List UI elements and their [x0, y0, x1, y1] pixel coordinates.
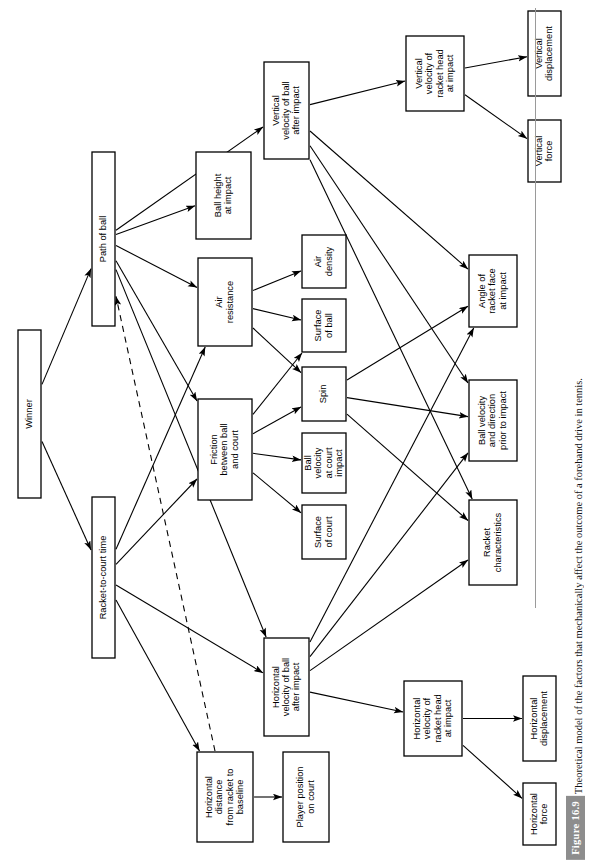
edge-winner-to-rct	[42, 442, 91, 550]
node-winner[interactable]: Winner	[18, 330, 41, 498]
node-label-airres: resistance	[225, 281, 235, 323]
edge-rct-to-hvball	[116, 585, 263, 673]
node-label-spin: Spin	[318, 385, 328, 404]
figure-caption-text: Theoretical model of the factors that me…	[573, 378, 584, 794]
node-hvball[interactable]: Horizontalvelocity of ballafter impact	[264, 638, 309, 736]
edge-vvracket-to-vforce	[465, 95, 527, 139]
node-label-winner: Winner	[24, 399, 34, 428]
figure-number-tag: Figure 16.9	[566, 796, 585, 860]
node-bvprior[interactable]: Ball velocityand directionprior to impac…	[469, 380, 517, 461]
figure-caption-area: Theoretical model of the factors that me…	[529, 0, 589, 866]
node-label-angleface: Angle of	[477, 274, 487, 309]
node-label-path: Path of ball	[98, 216, 108, 263]
node-label-airdens: Air	[313, 256, 323, 267]
node-label-hvracket: velocity of	[422, 697, 432, 739]
node-label-bvcourt: Ball	[303, 455, 313, 471]
node-label-surfball: of ball	[324, 313, 334, 338]
caption-rule	[535, 8, 536, 608]
node-label-hvracket: Horizontal	[412, 698, 422, 740]
node-ballheight[interactable]: Ball heightat impact	[196, 152, 251, 239]
node-label-surfball: Surface	[313, 309, 323, 341]
flowchart-diagram: WinnerPath of ballRacket-to-court timeBa…	[0, 0, 589, 866]
node-airdens[interactable]: Airdensity	[302, 235, 346, 288]
node-label-bvcourt: at court	[324, 447, 334, 478]
node-label-vvracket: velocity of	[424, 52, 434, 94]
node-label-friction: between ball	[219, 423, 229, 475]
node-airres[interactable]: Airresistance	[198, 258, 252, 346]
node-label-racketchar: Racket	[482, 528, 492, 557]
node-label-airres: Air	[214, 296, 224, 307]
node-rct[interactable]: Racket-to-court time	[92, 497, 115, 658]
node-vvball[interactable]: Verticalvelocity of ballafter impact	[264, 62, 309, 159]
edge-vvball-to-vvracket	[310, 81, 405, 105]
node-surfball[interactable]: Surfaceof ball	[302, 299, 346, 352]
node-label-ballheight: at impact	[223, 176, 233, 214]
node-layer: WinnerPath of ballRacket-to-court timeBa…	[18, 11, 561, 845]
node-label-vvracket: Vertical	[414, 58, 424, 89]
node-label-angleface: racket face	[487, 268, 497, 313]
node-label-bvprior: Ball velocity	[477, 396, 487, 445]
node-label-ballheight: Ball height	[213, 173, 223, 217]
edge-friction-to-bvcourt	[253, 453, 301, 460]
edge-path-to-ballheight	[116, 206, 195, 235]
edge-spin-to-racketchar	[347, 414, 468, 520]
edge-rct-to-hdist	[116, 600, 200, 751]
edge-hvball-to-hvracket	[310, 692, 403, 712]
edge-winner-to-path	[42, 269, 91, 385]
node-spin[interactable]: Spin	[302, 367, 346, 421]
edge-hvracket-to-hforce	[463, 745, 522, 798]
edge-airres-to-airdens	[253, 271, 301, 291]
edge-hdist-to-path	[116, 296, 215, 751]
edge-friction-to-surfball	[253, 353, 302, 414]
node-vvracket[interactable]: Verticalvelocity ofracket headat impact	[406, 36, 464, 111]
node-label-rct: Racket-to-court time	[98, 536, 108, 620]
node-hvracket[interactable]: Horizontalvelocity ofracket headat impac…	[404, 681, 462, 756]
node-label-vvball: velocity of ball	[281, 81, 291, 139]
node-label-friction: and court	[230, 430, 240, 469]
node-label-friction: Friction	[209, 434, 219, 464]
node-label-angleface: at impact	[498, 272, 508, 310]
node-label-racketchar: characteristics	[493, 512, 503, 572]
node-label-hdist: Horizontal	[204, 776, 214, 818]
edge-hvball-to-racketchar	[310, 560, 468, 671]
node-label-vvracket: racket head	[435, 49, 445, 98]
node-label-bvcourt: velocity	[313, 447, 323, 478]
node-racketchar[interactable]: Racketcharacteristics	[469, 500, 517, 585]
node-angleface[interactable]: Angle ofracket faceat impact	[469, 255, 517, 327]
node-label-bvprior: and direction	[487, 394, 497, 447]
node-label-hdist: baseline	[235, 780, 245, 815]
node-label-surfcourt: Surface	[313, 516, 323, 548]
node-label-surfcourt: of court	[324, 516, 334, 547]
node-label-bvprior: prior to impact	[498, 391, 508, 450]
node-surfcourt[interactable]: Surfaceof court	[302, 505, 346, 559]
node-label-vvball: Vertical	[271, 95, 281, 126]
node-label-hdist: from racket to	[225, 769, 235, 826]
node-path[interactable]: Path of ball	[92, 152, 115, 326]
node-label-playerpos: Player position	[295, 767, 305, 828]
node-playerpos[interactable]: Player positionon court	[283, 752, 329, 842]
node-label-bvcourt: impact	[334, 449, 344, 477]
edge-airres-to-surfball	[253, 309, 301, 320]
node-bvcourt[interactable]: Ballvelocityat courtimpact	[302, 433, 346, 493]
edge-friction-to-surfcourt	[253, 473, 301, 513]
node-label-playerpos: on court	[306, 780, 316, 814]
edge-vvracket-to-vdisp	[465, 57, 527, 68]
node-label-airdens: density	[324, 246, 334, 276]
edge-spin-to-angleface	[347, 306, 468, 380]
node-friction[interactable]: Frictionbetween balland court	[198, 399, 252, 500]
edge-friction-to-spin	[253, 407, 301, 434]
edge-spin-to-bvprior	[347, 398, 468, 417]
node-label-hdist: distance	[214, 780, 224, 815]
node-label-hvracket: racket head	[433, 694, 443, 743]
edge-airres-to-spin	[253, 328, 301, 373]
node-label-vvball: after impact	[291, 86, 301, 135]
node-label-hvball: velocity of ball	[281, 658, 291, 716]
node-label-hvracket: at impact	[443, 699, 453, 737]
node-hdist[interactable]: Horizontaldistancefrom racket tobaseline	[197, 752, 253, 842]
node-label-vvracket: at impact	[445, 54, 455, 92]
node-label-hvball: Horizontal	[271, 666, 281, 708]
node-label-hvball: after impact	[291, 662, 301, 711]
